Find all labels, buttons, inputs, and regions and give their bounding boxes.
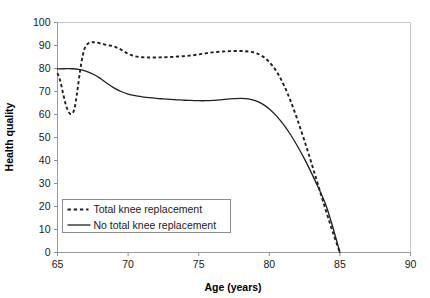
line-chart: 657075808590 0102030405060708090100 Tota… [0,0,430,298]
y-tick-label: 40 [39,154,51,166]
x-tick-label: 85 [334,258,346,270]
y-tick-label: 80 [39,62,51,74]
legend-label: No total knee replacement [94,219,217,231]
y-tick-label: 60 [39,108,51,120]
chart-legend: Total knee replacementNo total knee repl… [63,200,231,233]
y-tick-label: 0 [45,246,51,258]
y-tick-label: 70 [39,85,51,97]
y-tick-label: 100 [33,16,51,28]
legend-label: Total knee replacement [94,203,203,215]
y-tick-label: 30 [39,177,51,189]
x-tick-label: 80 [263,258,275,270]
x-axis-title: Age (years) [204,281,261,293]
y-axis-title: Health quality [3,102,15,171]
x-tick-label: 70 [122,258,134,270]
x-axis-tick-labels: 657075808590 [52,258,417,270]
y-tick-label: 50 [39,131,51,143]
y-tick-label: 10 [39,223,51,235]
y-tick-label: 90 [39,39,51,51]
y-tick-label: 20 [39,200,51,212]
y-axis-tick-labels: 0102030405060708090100 [33,16,51,258]
x-tick-label: 90 [405,258,417,270]
chart-container: 657075808590 0102030405060708090100 Tota… [0,0,430,298]
x-tick-label: 75 [193,258,205,270]
x-tick-label: 65 [52,258,64,270]
